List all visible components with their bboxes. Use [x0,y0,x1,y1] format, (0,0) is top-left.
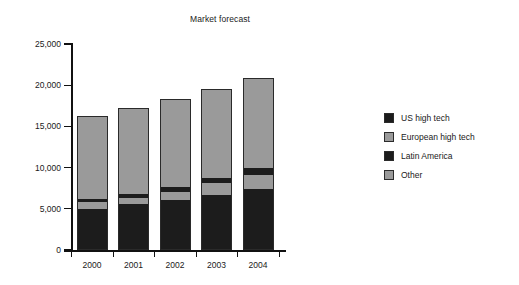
y-axis-tick [64,85,71,86]
y-axis-tick [64,126,71,127]
chart-screenshot: Market forecast 05,00010,00015,00020,000… [0,0,519,285]
bar-segment [118,204,149,250]
y-axis-tick-label: 25,000 [9,39,61,49]
bar-2002 [160,99,191,250]
y-axis-tick-label: 15,000 [9,121,61,131]
legend-swatch-icon [384,132,394,142]
x-axis-line [64,250,286,252]
chart-title: Market forecast [0,14,440,24]
x-axis-tick-label: 2000 [69,260,115,270]
legend-item-label: US high tech [401,113,450,123]
bar-2004 [243,78,274,250]
bar-2001 [118,108,149,250]
bar-segment [243,78,274,168]
y-axis-tick-label: 0 [9,245,61,255]
legend-item[interactable]: Other [384,166,475,183]
y-axis-tick [64,249,71,250]
legend-item[interactable]: US high tech [384,109,475,126]
y-axis-tick [64,167,71,168]
x-axis-tick [71,250,72,257]
bar-segment [160,200,191,250]
y-axis-tick-label: 20,000 [9,80,61,90]
bar-segment [77,116,108,198]
bar-2000 [77,116,108,250]
legend-item[interactable]: Latin America [384,147,475,164]
legend-swatch-icon [384,151,394,161]
bar-segment [243,189,274,250]
x-axis-tick-label: 2003 [194,260,240,270]
chart-legend: US high techEuropean high techLatin Amer… [384,109,475,185]
bar-segment [201,183,232,195]
bar-segment [243,175,274,189]
bar-segment [77,202,108,209]
legend-item[interactable]: European high tech [384,128,475,145]
bar-segment [77,209,108,250]
plot-area [71,44,280,250]
y-axis-tick-label: 5,000 [9,204,61,214]
legend-item-label: Latin America [401,151,453,161]
x-axis-tick-label: 2001 [111,260,157,270]
bar-segment [118,108,149,194]
legend-item-label: European high tech [401,132,475,142]
y-axis-tick [64,43,71,44]
legend-swatch-icon [384,170,394,180]
x-axis-tick [113,250,114,257]
bar-2003 [201,89,232,250]
x-axis-tick [154,250,155,257]
x-axis-tick-label: 2002 [152,260,198,270]
bar-segment [201,89,232,178]
bar-segment [243,168,274,175]
bar-segment [160,192,191,199]
bar-segment [160,99,191,187]
y-axis-tick-label: 10,000 [9,163,61,173]
legend-swatch-icon [384,113,394,123]
x-axis-tick [279,250,280,257]
legend-item-label: Other [401,170,422,180]
bar-segment [201,195,232,250]
bar-segment [118,198,149,205]
x-axis-tick-label: 2004 [235,260,281,270]
y-axis-tick [64,208,71,209]
x-axis-tick [237,250,238,257]
x-axis-tick [196,250,197,257]
